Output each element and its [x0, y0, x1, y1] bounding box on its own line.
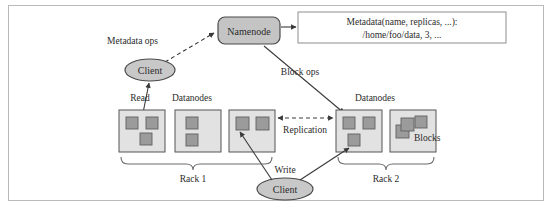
block-ops-label: Block ops — [281, 67, 320, 77]
block — [236, 117, 249, 130]
block — [401, 118, 414, 131]
datanode-5[interactable]: Blocks — [390, 110, 441, 152]
datanode-1[interactable] — [119, 110, 165, 152]
blocks-label: Blocks — [414, 133, 441, 143]
block — [140, 133, 152, 145]
rack2-brace — [338, 157, 434, 170]
datanode-1-box — [119, 110, 165, 152]
metadata-ops-label: Metadata ops — [107, 36, 158, 46]
datanode-3[interactable] — [229, 110, 275, 152]
datanode-3-box — [229, 110, 275, 152]
client-write-label: Client — [273, 184, 298, 195]
block — [186, 134, 198, 146]
rack1-brace — [121, 157, 272, 170]
datanode-4[interactable] — [336, 110, 382, 152]
block — [348, 134, 360, 146]
client-write[interactable]: Client — [257, 178, 313, 200]
block — [415, 116, 427, 128]
namenode-label: Namenode — [227, 26, 271, 37]
read-label: Read — [130, 93, 150, 103]
block-ops-arrow — [264, 46, 344, 113]
block — [343, 117, 355, 129]
block — [186, 117, 198, 129]
datanodes-right-label: Datanodes — [355, 93, 395, 103]
rack1-label: Rack 1 — [180, 174, 207, 184]
metadata-line-1: Metadata(name, replicas, ...): — [346, 17, 457, 28]
block — [256, 117, 269, 130]
replication-label: Replication — [283, 125, 327, 135]
block — [363, 117, 375, 129]
rack2-label: Rack 2 — [373, 174, 400, 184]
client-read[interactable]: Client — [125, 59, 175, 81]
metadata-ops-arrow — [165, 33, 214, 62]
metadata-box: Metadata(name, replicas, ...): /home/foo… — [298, 12, 506, 43]
block — [126, 117, 138, 129]
datanodes-left-label: Datanodes — [172, 93, 212, 103]
namenode[interactable]: Namenode — [218, 17, 280, 44]
block — [146, 117, 158, 129]
metadata-line-2: /home/foo/data, 3, ... — [363, 30, 442, 40]
client-read-label: Client — [138, 65, 163, 76]
write-label: Write — [274, 165, 295, 175]
datanode-2[interactable] — [175, 110, 221, 152]
diagram-canvas: Metadata(name, replicas, ...): /home/foo… — [0, 0, 553, 210]
hdfs-architecture-diagram: Metadata(name, replicas, ...): /home/foo… — [0, 0, 553, 210]
